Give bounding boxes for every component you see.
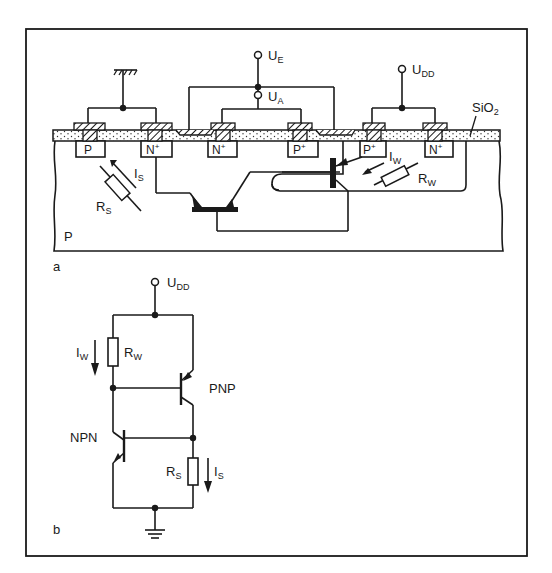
oxide-label: SiO2 [472,100,499,117]
substrate-label: P [64,229,73,244]
panel-a-cross-section: P N+ N+ P+ P+ N+ [53,48,503,251]
current-arrow-is [204,458,212,493]
resistor-rs [188,458,198,485]
lateral-npn-transistor [156,157,348,231]
resistor-rw-label: RW [418,171,436,188]
current-is-label: IS [134,166,144,183]
supply-voltage-label: UDD [412,62,435,79]
panel-b-label: b [53,522,60,537]
diffusion-label: P [84,143,92,157]
resistor-rw [362,163,418,186]
pnp-label: PNP [209,381,236,396]
ground-connection [88,70,156,123]
current-arrow-iw [91,340,99,376]
supply-voltage-label: UDD [167,275,190,292]
resistor-rs-label: RS [96,199,111,216]
npn-label: NPN [70,430,97,445]
panel-b-schematic [91,279,212,539]
supply-terminal [399,66,406,73]
resistor-rs-label: RS [166,464,181,481]
input-voltage-label: UE [268,48,283,65]
current-iw-label: IW [389,149,402,166]
input-output-connection [189,52,334,131]
current-is-label: IS [214,464,224,481]
output-voltage-label: UA [268,89,283,106]
well-corner [272,184,279,190]
current-iw-label: IW [76,345,89,362]
ground-icon [114,70,137,75]
supply-terminal [152,279,159,286]
panel-a-label: a [53,259,61,274]
resistor-rw-label: RW [124,345,142,362]
latchup-figure: P N+ N+ P+ P+ N+ [0,0,552,573]
output-terminal [255,92,262,99]
npn-transistor [113,430,196,508]
ground-icon [145,530,165,538]
resistor-rw [108,338,118,366]
input-terminal [255,52,262,59]
